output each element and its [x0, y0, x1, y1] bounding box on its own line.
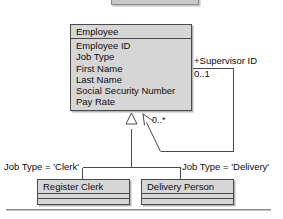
association-multiplicity-source: 0..1: [194, 68, 210, 79]
attribute-item: Pay Rate: [76, 96, 191, 107]
empty-compartment: [142, 199, 233, 204]
class-box-register-clerk[interactable]: Register Clerk: [37, 179, 130, 205]
empty-compartment: [38, 199, 129, 204]
class-box-delivery-person[interactable]: Delivery Person: [141, 179, 234, 205]
footer-rule: [6, 209, 271, 210]
discriminator-label-clerk: Job Type = 'Clerk': [4, 161, 79, 172]
association-role-label: +Supervisor ID: [194, 55, 257, 66]
attribute-item: Job Type: [76, 51, 191, 62]
attribute-item: Last Name: [76, 74, 191, 85]
attribute-item: First Name: [76, 63, 191, 74]
class-name-delivery-person: Delivery Person: [142, 180, 233, 194]
class-name-register-clerk: Register Clerk: [38, 180, 129, 194]
uml-class-diagram-canvas: Employee Employee ID Job Type First Name…: [0, 0, 283, 219]
generalization-triangle: [126, 113, 137, 124]
class-box-employee[interactable]: Employee Employee ID Job Type First Name…: [70, 24, 192, 111]
discriminator-label-delivery: Job Type = 'Delivery': [182, 161, 269, 172]
attribute-item: Social Security Number: [76, 85, 191, 96]
attribute-list-employee: Employee ID Job Type First Name Last Nam…: [71, 39, 191, 110]
association-multiplicity-target: 0..*: [152, 115, 166, 126]
attribute-item: Employee ID: [76, 40, 191, 51]
supervisor-association-diagonal: [147, 123, 161, 152]
class-name-employee: Employee: [71, 25, 191, 39]
